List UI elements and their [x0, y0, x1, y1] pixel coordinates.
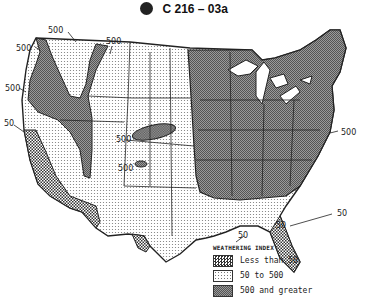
svg-text:50: 50 — [4, 119, 14, 128]
svg-text:50: 50 — [276, 221, 286, 230]
svg-text:500: 500 — [16, 44, 31, 53]
swatch-high-icon — [213, 285, 233, 297]
legend-item-mid: 50 to 500 — [213, 270, 312, 281]
legend-item-low: Less than 50 — [213, 255, 312, 266]
us-weathering-map: 500 500 500 500 50 500 500 500 50 50 50 — [0, 0, 368, 303]
legend: WEATHERING INDEX Less than 50 50 to 500 … — [213, 244, 312, 296]
swatch-low-icon — [213, 255, 233, 267]
swatch-mid-icon — [213, 270, 233, 282]
region-high-east — [188, 30, 346, 200]
svg-text:500: 500 — [5, 84, 20, 93]
svg-text:500: 500 — [118, 164, 133, 173]
svg-text:500: 500 — [106, 37, 121, 46]
legend-item-high: 500 and greater — [213, 285, 312, 296]
legend-title: WEATHERING INDEX — [213, 244, 312, 251]
svg-text:500: 500 — [48, 26, 63, 35]
svg-text:500: 500 — [341, 128, 356, 137]
svg-text:50: 50 — [337, 209, 347, 218]
svg-text:500: 500 — [116, 135, 131, 144]
region-high-newmexico — [135, 161, 147, 167]
svg-text:50: 50 — [238, 231, 248, 240]
